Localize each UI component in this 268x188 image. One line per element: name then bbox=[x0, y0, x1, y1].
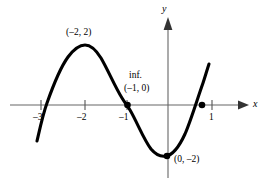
minimum-point-label: (0, –2) bbox=[174, 155, 199, 165]
point-dot-x-intercept bbox=[199, 102, 206, 109]
inflection-point-label: (–1, 0) bbox=[124, 84, 149, 94]
maximum-point-label: (–2, 2) bbox=[66, 28, 91, 38]
inflection-word-label: inf. bbox=[129, 71, 142, 81]
y-axis-label: y bbox=[162, 4, 166, 14]
x-tick-label--3: –3 bbox=[33, 113, 43, 123]
x-tick-label-1: 1 bbox=[209, 113, 214, 123]
y-axis-arrowhead bbox=[164, 17, 173, 30]
cubic-graph-svg bbox=[0, 0, 268, 188]
x-tick-label--2: –2 bbox=[77, 113, 87, 123]
graph-figure: y x –3 –2 –1 1 (–2, 2) inf. (–1, 0) (0, … bbox=[0, 0, 268, 188]
x-tick-label--1: –1 bbox=[119, 113, 129, 123]
x-axis-arrowhead bbox=[238, 101, 249, 110]
cubic-curve bbox=[37, 45, 209, 156]
point-dot-minimum bbox=[164, 153, 171, 160]
point-dot-inflection bbox=[124, 102, 131, 109]
x-axis-label: x bbox=[253, 99, 257, 109]
